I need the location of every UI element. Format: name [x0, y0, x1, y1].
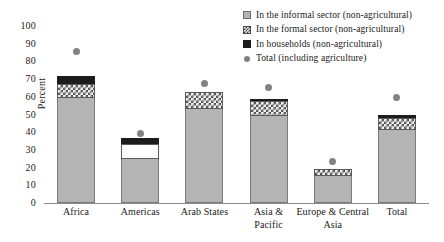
x-axis-labels: AfricaAmericasArab StatesAsia &PacificEu… [44, 206, 429, 242]
bar-stack [57, 76, 95, 203]
x-axis-category-label: Total [358, 206, 436, 219]
y-tick-label: 60 [26, 92, 36, 102]
bar-segment-formal [378, 118, 416, 130]
bar-segment-informal [314, 176, 352, 203]
stacked-bar-chart: In the informal sector (non-agricultural… [0, 0, 444, 242]
total-marker-dot [329, 158, 336, 165]
bar-segment-informal [121, 159, 159, 203]
bar-stack [314, 169, 352, 203]
y-tick-label: 10 [26, 180, 36, 190]
legend-item-informal: In the informal sector (non-agricultural… [243, 8, 443, 23]
bar-segment-formal [57, 84, 95, 98]
y-tick-label: 0 [31, 198, 36, 208]
informal-swatch-icon [243, 11, 251, 19]
total-marker-dot [201, 80, 208, 87]
y-tick-label: 50 [26, 110, 36, 120]
bar-segment-informal [378, 130, 416, 203]
total-marker-dot [265, 84, 272, 91]
bar-segment-informal [185, 109, 223, 203]
y-tick-label: 100 [20, 21, 36, 31]
y-tick-label: 30 [26, 145, 36, 155]
bar-segment-formal [250, 101, 288, 116]
bar-segment-informal [250, 116, 288, 203]
bar-segment-formal [185, 92, 223, 110]
legend-label-informal: In the informal sector (non-agricultural… [256, 10, 412, 21]
bar-segment-households [57, 76, 95, 84]
bar-segment-formal [314, 169, 352, 176]
x-axis-line [44, 203, 429, 204]
bar-stack [185, 92, 223, 203]
plot-area [44, 26, 429, 204]
y-tick-label: 90 [26, 39, 36, 49]
bar-segment-informal [57, 98, 95, 203]
y-tick-label: 80 [26, 56, 36, 66]
total-marker-dot [393, 94, 400, 101]
total-marker-dot [73, 48, 80, 55]
y-axis-ticks: 0102030405060708090100 [0, 26, 40, 204]
bar-stack [121, 138, 159, 203]
y-tick-label: 40 [26, 127, 36, 137]
bar-stack [250, 99, 288, 203]
y-tick-label: 70 [26, 74, 36, 84]
y-tick-label: 20 [26, 163, 36, 173]
bar-stack [378, 115, 416, 203]
total-marker-dot [137, 130, 144, 137]
bar-segment-formal [121, 144, 159, 159]
